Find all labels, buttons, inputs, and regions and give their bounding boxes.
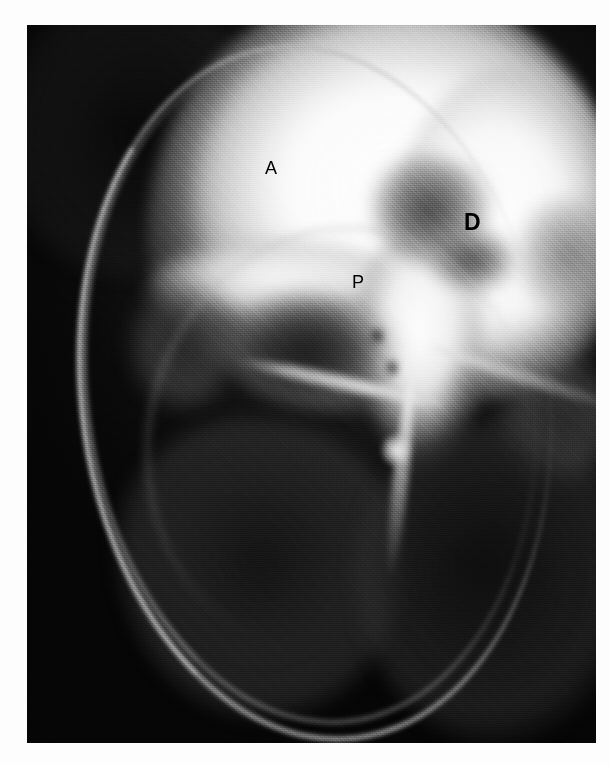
figure-root: A P D bbox=[0, 0, 610, 765]
annotation-label-a: A bbox=[265, 159, 277, 177]
annotation-label-p: P bbox=[352, 273, 364, 291]
vessel-bright-node bbox=[383, 435, 409, 465]
annotation-label-d: D bbox=[464, 211, 481, 234]
radiograph-image: A P D bbox=[27, 25, 596, 743]
